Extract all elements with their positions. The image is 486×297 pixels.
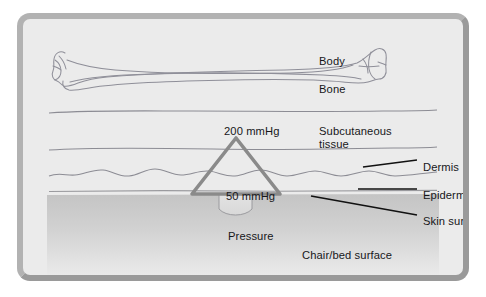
label-pressure-at-skin: 50 mmHg bbox=[226, 190, 275, 203]
label-pressure: Pressure bbox=[228, 230, 274, 243]
label-epidermis: Epidermis bbox=[423, 189, 469, 202]
label-chair-bed-surface: Chair/bed surface bbox=[302, 249, 392, 262]
dermis-leader-line bbox=[363, 160, 417, 167]
tissue-line-subcutaneous-top bbox=[49, 110, 437, 113]
label-bone: Bone bbox=[319, 83, 346, 96]
label-body: Body bbox=[319, 55, 345, 68]
label-dermis: Dermis bbox=[423, 161, 459, 174]
label-subcutaneous-tissue: Subcutaneous tissue bbox=[319, 125, 392, 152]
pressure-triangle bbox=[192, 138, 280, 194]
diagram-screenshot: Body Bone Subcutaneous tissue Dermis Epi… bbox=[0, 0, 486, 297]
diagram-frame: Body Bone Subcutaneous tissue Dermis Epi… bbox=[17, 13, 469, 281]
label-pressure-at-bone: 200 mmHg bbox=[224, 125, 280, 138]
label-skin-surface: Skin surface bbox=[423, 215, 469, 228]
tissue-line-dermis-epidermis-wavy bbox=[49, 169, 437, 176]
